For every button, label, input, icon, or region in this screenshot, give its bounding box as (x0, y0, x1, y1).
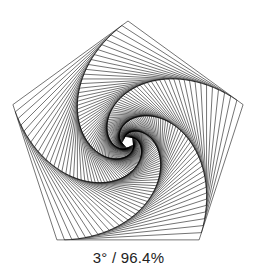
pentagon-layers (13, 21, 243, 240)
whirl-pentagon-diagram (0, 0, 257, 245)
caption-rotation-scale: 3° / 96.4% (0, 249, 257, 266)
nested-rotated-pentagons (0, 0, 257, 245)
